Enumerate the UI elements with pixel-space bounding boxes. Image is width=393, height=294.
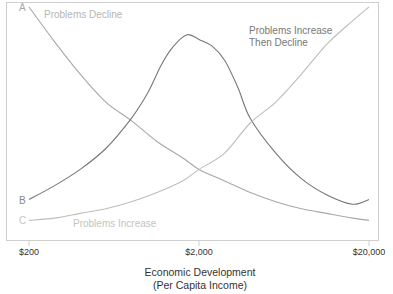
x-ticks-group: $200$2,000$20,000 (19, 241, 385, 258)
x-tick-label: $200 (19, 247, 39, 257)
series-letter-c: C (19, 215, 26, 226)
x-axis-sublabel: (Per Capita Income) (153, 279, 247, 291)
plot-frame (7, 3, 379, 241)
chart: $200$2,000$20,000 A B C Problems Decline… (0, 0, 393, 294)
annotation-problems-decline: Problems Decline (44, 9, 123, 20)
series-letter-b: B (19, 195, 26, 206)
annotation-line: Problems Decline (44, 9, 123, 20)
curve-b (29, 35, 369, 205)
x-tick-label: $20,000 (353, 247, 386, 257)
annotation-problems-increase: Problems Increase (73, 218, 157, 229)
curves-group (29, 7, 369, 220)
annotation-line: Problems Increase (249, 25, 333, 36)
annotation-line: Then Decline (249, 37, 308, 48)
series-letter-a: A (19, 2, 26, 13)
annotation-line: Problems Increase (73, 218, 157, 229)
x-tick-label: $2,000 (185, 247, 213, 257)
annotation-problems-increase-then-decline: Problems IncreaseThen Decline (249, 25, 333, 48)
x-axis-label: Economic Development (145, 266, 256, 278)
